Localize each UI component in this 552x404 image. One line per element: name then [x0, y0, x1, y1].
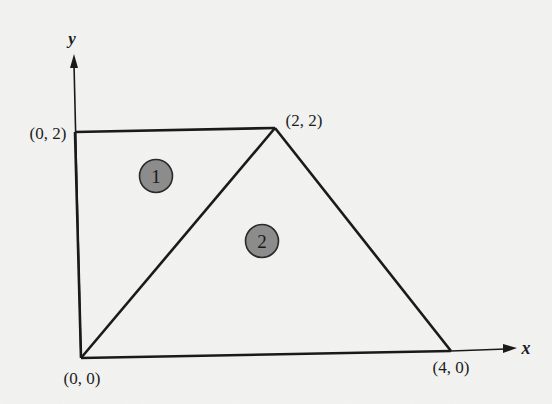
region-2-marker: 2: [246, 225, 279, 258]
diagram-svg: 1 2 y x (0, 2) (2, 2) (0, 0) (4, 0): [0, 0, 552, 404]
vertex-label-right: (4, 0): [433, 358, 470, 377]
paper-texture: [0, 0, 552, 404]
y-axis-label: y: [66, 29, 76, 48]
region-2-label: 2: [257, 231, 267, 252]
region-1-label: 1: [151, 166, 161, 187]
x-axis-label: x: [521, 338, 531, 358]
vertex-label-apex: (2, 2): [286, 111, 323, 130]
diagram-canvas: 1 2 y x (0, 2) (2, 2) (0, 0) (4, 0): [0, 0, 552, 404]
vertex-label-origin: (0, 0): [64, 369, 101, 388]
vertex-label-top-left: (0, 2): [30, 124, 67, 143]
region-1-marker: 1: [140, 160, 173, 193]
